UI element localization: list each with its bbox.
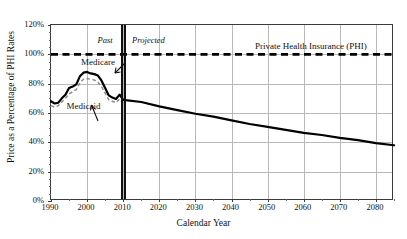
chart-figure: Price as a Percentage of PHI Rates Calen… <box>0 0 407 239</box>
y-tick-label: 120% <box>0 20 44 29</box>
y-tick-label: 0% <box>0 196 44 205</box>
x-tick-label: 2000 <box>78 203 95 212</box>
plot-area: Past Projected Private Health Insurance … <box>50 24 393 200</box>
x-tick-label: 2070 <box>330 203 347 212</box>
x-tick-label: 2060 <box>294 203 311 212</box>
x-tick-minor <box>394 199 395 201</box>
medicare-arrow-line <box>115 63 125 73</box>
annotation-arrows <box>51 25 394 201</box>
x-tick-label: 2080 <box>366 203 383 212</box>
x-tick-label: 2020 <box>150 203 167 212</box>
y-tick-label: 40% <box>0 137 44 146</box>
y-axis-title: Price as a Percentage of PHI Rates <box>6 2 16 192</box>
y-tick-label: 20% <box>0 166 44 175</box>
y-tick-label: 80% <box>0 78 44 87</box>
x-tick-label: 2040 <box>222 203 239 212</box>
x-tick-label: 1990 <box>42 203 59 212</box>
x-tick-label: 2010 <box>114 203 131 212</box>
x-axis-title: Calendar Year <box>0 218 407 228</box>
x-tick-label: 2050 <box>258 203 275 212</box>
medicaid-arrow-line <box>92 105 99 121</box>
x-tick-label: 2030 <box>186 203 203 212</box>
y-tick-label: 60% <box>0 108 44 117</box>
y-tick-label: 100% <box>0 49 44 58</box>
